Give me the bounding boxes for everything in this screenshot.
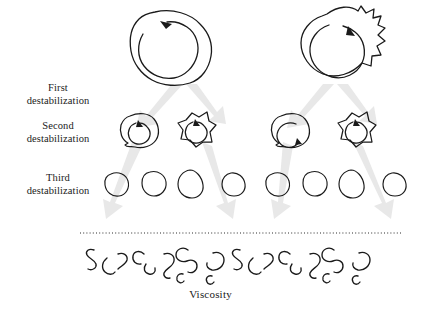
stage-label-second-line2: destabilization [6, 133, 110, 146]
squiggle-14 [279, 252, 290, 265]
squiggle-15 [290, 264, 301, 274]
small-droplet-4 [222, 173, 245, 196]
squiggle-13 [264, 253, 273, 269]
branch-arrow-r1-right [337, 84, 377, 124]
stage-label-third-line1: Third [6, 172, 110, 185]
squiggle-5 [144, 264, 155, 274]
viscosity-axis-label: Viscosity [0, 288, 421, 300]
squiggle-7 [176, 248, 197, 272]
stage-label-third-line2: destabilization [6, 185, 110, 198]
branch-arrow-r1-left [287, 84, 334, 128]
small-droplet-2 [142, 172, 166, 196]
medium-aggregate-2-outline [178, 112, 216, 147]
squiggle-16 [310, 253, 320, 278]
small-droplet-6 [303, 172, 327, 196]
squiggle-8 [177, 274, 184, 283]
stage-label-second-line1: Second [6, 120, 110, 133]
squiggle-20 [352, 276, 360, 284]
stage-label-first-line2: destabilization [6, 95, 110, 108]
squiggle-19 [353, 252, 370, 270]
stage-label-first-line1: First [6, 82, 110, 95]
squiggle-4 [133, 252, 144, 265]
small-droplet-7 [339, 170, 364, 198]
medium-aggregate-3-arrowhead [295, 138, 302, 145]
stage-label-first: First destabilization [6, 82, 110, 107]
level1-aggregates [130, 6, 385, 85]
squiggle-1 [86, 249, 96, 269]
figure-canvas: First destabilization Second destabiliza… [0, 0, 421, 314]
level2-aggregates [120, 112, 376, 148]
squiggle-9 [207, 252, 224, 270]
large-aggregate-left-inner-circle [139, 22, 198, 79]
branch-arrow-l1-right [186, 84, 226, 124]
squiggle-3 [118, 253, 127, 269]
squiggle-6 [164, 253, 174, 278]
branch-arrow-r2-b [353, 142, 394, 219]
level3-droplets [105, 170, 406, 198]
small-droplet-3 [178, 170, 203, 198]
level4-polymer-squiggles [86, 248, 370, 284]
stage-label-second: Second destabilization [6, 120, 110, 145]
branch-arrow-l1-left [136, 84, 183, 128]
squiggle-10 [206, 276, 214, 284]
stage-label-third: Third destabilization [6, 172, 110, 197]
branch-arrow-r2-a [271, 142, 293, 219]
branch-arrow-l2-b [202, 142, 236, 219]
squiggle-2 [103, 258, 115, 274]
large-aggregate-right-outline [301, 6, 385, 76]
squiggle-17 [322, 248, 343, 272]
large-aggregate-right-inner-circle [310, 25, 364, 78]
branch-arrow-group [103, 84, 394, 219]
small-droplet-8 [383, 173, 406, 196]
squiggle-18 [323, 274, 330, 283]
squiggle-12 [249, 258, 261, 274]
destabilization-diagram [0, 0, 421, 314]
squiggle-11 [232, 249, 242, 269]
